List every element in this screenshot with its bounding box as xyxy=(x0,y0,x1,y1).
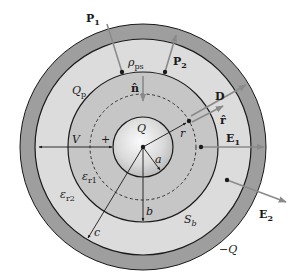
label-c: c xyxy=(94,226,100,239)
center-dot xyxy=(141,145,145,149)
e2-dot xyxy=(225,178,229,182)
label-plus: + xyxy=(101,133,110,146)
label-neg-q: −Q xyxy=(219,243,237,256)
label-n-hat: n̂ xyxy=(131,82,139,95)
p2-dot xyxy=(163,70,167,74)
label-a: a xyxy=(155,153,162,166)
p1-dot xyxy=(120,70,124,74)
e1-dot xyxy=(199,145,203,149)
label-q: Q xyxy=(137,122,146,135)
label-b: b xyxy=(146,205,153,218)
label-d: D xyxy=(215,90,225,103)
label-p1: P1 xyxy=(86,12,100,27)
label-v: V xyxy=(72,133,81,146)
r-dot xyxy=(187,119,191,123)
spherical-capacitor-diagram: P1 P2 ρps n̂ Qp D r̂ r E1 E2 Q −Q V + a … xyxy=(0,0,299,278)
label-e2: E2 xyxy=(259,208,273,223)
label-r-hat: r̂ xyxy=(220,114,226,127)
label-r: r xyxy=(180,127,186,140)
